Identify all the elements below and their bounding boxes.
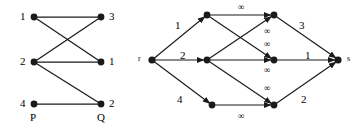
left-side-label-P: P (30, 112, 36, 123)
edge-p2-q3 (34, 62, 101, 104)
node-u2 (204, 57, 211, 64)
capacity-label-u2-v1: ∞ (264, 27, 270, 36)
source-label-r: r (138, 55, 141, 63)
left-node-label-p3: 4 (20, 98, 26, 109)
capacity-label-v1-s: 3 (299, 20, 305, 31)
left-node-label-q1: 3 (109, 11, 115, 22)
node-v2 (271, 57, 278, 64)
capacity-label-v3-s: 2 (301, 94, 307, 105)
capacity-label-u1-v2: ∞ (264, 40, 270, 49)
node-v1 (271, 12, 278, 19)
capacity-label-r-u3: 4 (177, 94, 183, 105)
node-p2 (31, 59, 38, 66)
edge-u2-v3 (207, 60, 272, 104)
node-v3 (271, 102, 278, 109)
node-p1 (31, 14, 38, 21)
left-node-label-p2: 2 (20, 56, 26, 67)
capacity-label-u2-v3: ∞ (264, 84, 270, 93)
graph-svg (0, 0, 362, 131)
sink-label-s: s (347, 55, 350, 63)
left-node-label-p1: 1 (20, 11, 26, 22)
capacity-label-r-u2: 2 (180, 50, 186, 61)
capacity-label-r-u1: 1 (175, 20, 181, 31)
capacity-label-v2-s: 1 (305, 50, 311, 61)
left-node-label-q2: 1 (109, 56, 115, 67)
capacity-label-u1-v1: ∞ (238, 3, 244, 12)
figure-canvas: 1 2 4 3 1 2 P Q r s 1 2 4 ∞ ∞ ∞ ∞ ∞ ∞ 3 … (0, 0, 362, 131)
left-graph-edges (34, 17, 101, 104)
left-graph-nodes (31, 14, 105, 108)
node-q2 (98, 59, 105, 66)
edge-u2-v1 (207, 17, 272, 61)
left-node-label-q3: 2 (109, 98, 115, 109)
node-u1 (204, 12, 211, 19)
node-q1 (98, 14, 105, 21)
node-r (148, 56, 155, 63)
node-s (334, 56, 341, 63)
edge-u1-v2 (207, 15, 272, 59)
node-u3 (209, 102, 216, 109)
capacity-label-u3-v3: ∞ (238, 112, 244, 121)
left-side-label-Q: Q (97, 112, 105, 123)
capacity-label-u2-v2: ∞ (264, 66, 270, 75)
